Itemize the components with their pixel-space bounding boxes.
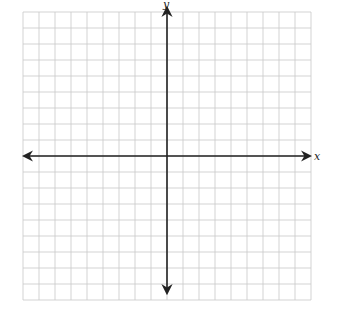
coordinate-plane: x y xyxy=(0,0,344,310)
y-axis-label: y xyxy=(162,0,170,11)
x-axis-label: x xyxy=(314,150,321,163)
